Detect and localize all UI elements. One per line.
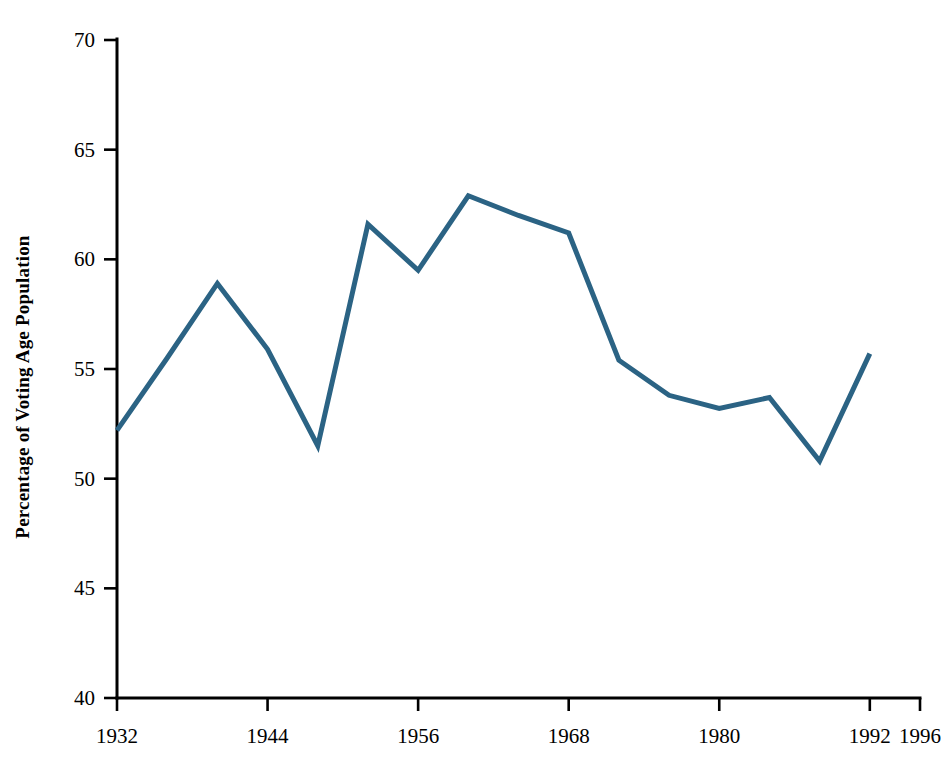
y-tick-label: 50	[74, 467, 95, 491]
chart-container: Percentage of Voting Age Population 4045…	[0, 0, 949, 774]
y-tick-label: 65	[74, 138, 95, 162]
y-tick-label: 55	[74, 357, 95, 381]
x-axis-ticks: 1932194419561968198019921996	[96, 698, 941, 748]
x-tick-label: 1932	[96, 724, 138, 748]
y-tick-label: 70	[74, 28, 95, 52]
x-tick-label: 1996	[899, 724, 941, 748]
x-tick-label: 1980	[698, 724, 740, 748]
y-tick-label: 60	[74, 247, 95, 271]
y-axis-ticks: 40455055606570	[74, 28, 117, 710]
chart-plot-area: 40455055606570 1932194419561968198019921…	[0, 0, 949, 774]
y-tick-label: 45	[74, 576, 95, 600]
x-tick-label: 1992	[849, 724, 891, 748]
x-tick-label: 1968	[548, 724, 590, 748]
x-tick-label: 1956	[397, 724, 439, 748]
data-series-line	[117, 196, 870, 461]
y-tick-label: 40	[74, 686, 95, 710]
x-tick-label: 1944	[247, 724, 290, 748]
